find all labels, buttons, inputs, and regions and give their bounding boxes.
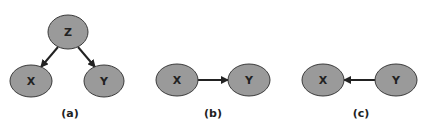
node-y: Y	[375, 64, 417, 96]
node-y: Y	[84, 65, 124, 97]
node-z: Z	[48, 15, 88, 49]
node-x: X	[302, 64, 344, 96]
node-y-label: Y	[99, 75, 109, 88]
diagram-c: X Y (c)	[302, 64, 417, 120]
edge-z-to-x	[41, 47, 58, 67]
node-x-label: X	[173, 74, 182, 87]
node-z-label: Z	[64, 26, 72, 39]
caption-a: (a)	[61, 107, 78, 120]
diagram-b: X Y (b)	[156, 64, 270, 120]
causal-diagrams: Z X Y (a) X Y (b) X Y	[0, 0, 430, 128]
node-y-label: Y	[391, 74, 401, 87]
node-x-label: X	[319, 74, 328, 87]
node-y: Y	[228, 64, 270, 96]
caption-c: (c)	[353, 107, 370, 120]
node-x: X	[10, 65, 52, 97]
node-y-label: Y	[244, 74, 254, 87]
diagram-a: Z X Y (a)	[10, 15, 124, 120]
node-x-label: X	[27, 75, 36, 88]
caption-b: (b)	[204, 107, 222, 120]
node-x: X	[156, 64, 198, 96]
edge-z-to-y	[78, 47, 95, 67]
